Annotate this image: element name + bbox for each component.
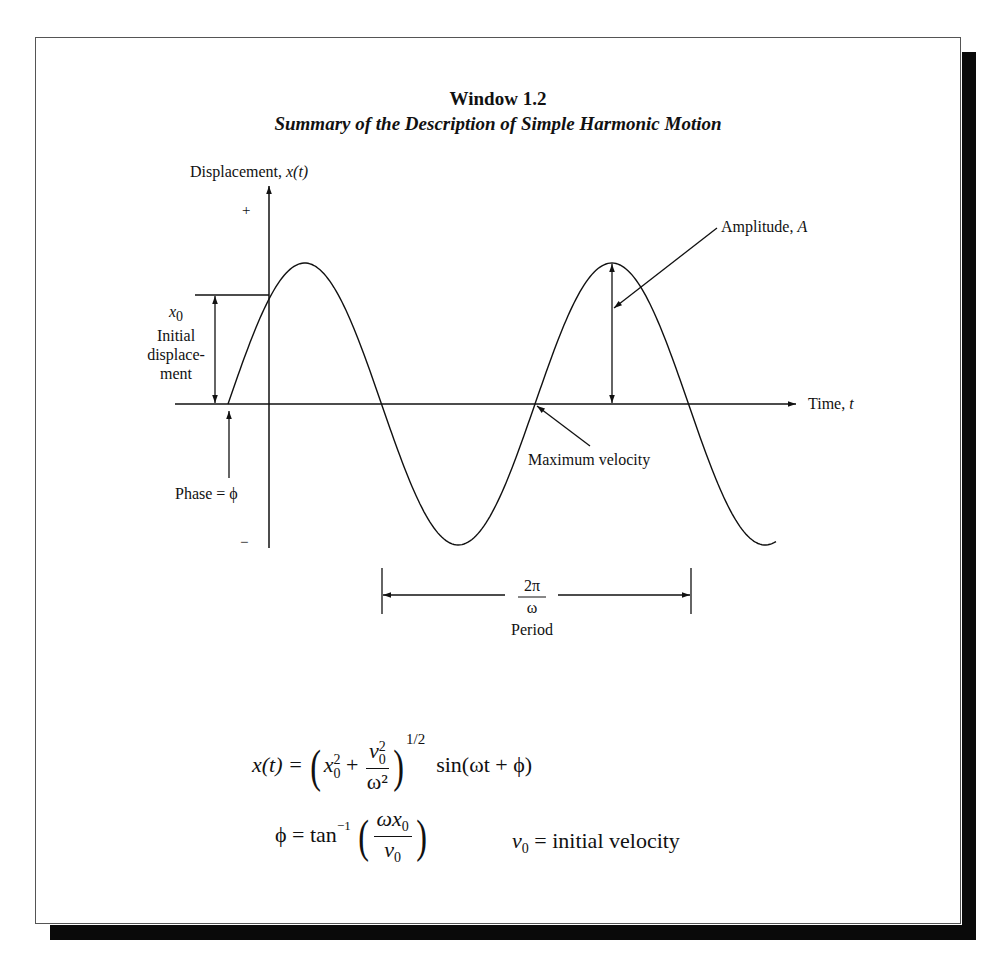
period-numerator: 2π xyxy=(518,578,546,594)
x0-symbol-sub: 0 xyxy=(176,309,183,324)
eq1-num-scripts: 20 xyxy=(379,740,386,766)
y-minus-label: − xyxy=(240,535,248,550)
eq2-num-sub: 0 xyxy=(402,819,409,834)
eq1-rhs: sin(ωt + ϕ) xyxy=(436,752,532,777)
x-axis-label: Time, t xyxy=(808,396,854,412)
equation-phase: ϕ = tan−1 (ωx0v0) xyxy=(275,808,429,866)
x0-label: x0 Initial displace- ment xyxy=(138,302,214,383)
eq3-lhs: v xyxy=(512,828,522,853)
eq1-fraction: v20ω² xyxy=(366,740,389,793)
period-label: Period xyxy=(500,622,564,638)
x0-symbol-x: x xyxy=(169,303,176,320)
eq1-num-v: v xyxy=(369,739,379,764)
eq2-lhs: ϕ = tan xyxy=(275,822,337,847)
eq2-den: v xyxy=(384,837,394,862)
eq2-denominator: v0 xyxy=(374,837,412,865)
eq1-lhs: x(t) = xyxy=(252,752,308,777)
eq2-num: ωx xyxy=(377,806,402,831)
amplitude-label: Amplitude, A xyxy=(721,219,807,235)
eq2-close-paren: ) xyxy=(416,814,427,860)
x0-line1: Initial xyxy=(138,326,214,345)
shm-diagram xyxy=(0,0,1001,965)
amplitude-label-text: Amplitude, xyxy=(721,218,797,235)
period-denominator: ω xyxy=(518,600,546,616)
y-plus-label: + xyxy=(242,203,250,218)
eq1-plus: + xyxy=(340,752,363,777)
x0-symbol: x0 xyxy=(138,302,214,326)
eq1-x0: x xyxy=(324,752,334,777)
eq1-exponent: 1/2 xyxy=(406,731,425,747)
x0-line3: ment xyxy=(138,364,214,383)
eq2-open-paren: ( xyxy=(359,814,370,860)
phase-label: Phase = ϕ xyxy=(175,486,238,502)
eq1-open-paren: ( xyxy=(311,744,322,790)
eq3-lhs-sub: 0 xyxy=(522,841,529,856)
eq1-denominator: ω² xyxy=(366,769,389,793)
y-axis-label: Displacement, x(t) xyxy=(190,164,308,180)
eq2-den-sub: 0 xyxy=(394,851,401,866)
eq1-numerator: v20 xyxy=(366,740,389,769)
amplitude-label-var: A xyxy=(797,218,807,235)
eq2-numerator: ωx0 xyxy=(374,808,412,837)
equation-displacement: x(t) = (x20 + v20ω²)1/2 sin(ωt + ϕ) xyxy=(252,732,532,793)
eq1-num-sub: 0 xyxy=(379,753,386,766)
eq3-rhs: = initial velocity xyxy=(529,828,680,853)
equation-initial-velocity: v0 = initial velocity xyxy=(512,830,680,856)
x-axis-label-var: t xyxy=(849,395,853,412)
eq2-fraction: ωx0v0 xyxy=(374,808,412,866)
max-velocity-label: Maximum velocity xyxy=(528,452,650,468)
x-axis-label-text: Time, xyxy=(808,395,849,412)
y-axis-label-var: x(t) xyxy=(286,163,308,180)
eq1-close-paren: ) xyxy=(393,744,404,790)
x0-line2: displace- xyxy=(138,345,214,364)
y-axis-label-text: Displacement, xyxy=(190,163,286,180)
eq2-inverse-sup: −1 xyxy=(337,818,351,833)
amplitude-pointer xyxy=(614,228,717,308)
max-velocity-pointer xyxy=(537,406,590,446)
